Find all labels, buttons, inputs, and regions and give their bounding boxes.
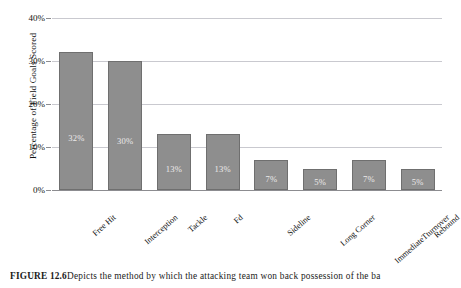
- bar[interactable]: 7%: [352, 160, 386, 190]
- figure-caption-text: Depicts the method by which the attackin…: [67, 271, 381, 281]
- y-tick-mark: [46, 190, 51, 191]
- bar-value-label: 30%: [109, 136, 141, 146]
- bar-value-label: 5%: [304, 177, 336, 187]
- figure-number: FIGURE 12.6: [10, 271, 67, 281]
- bar-chart: Percentage of Field Goals Scored 0%10%20…: [0, 0, 455, 262]
- bar[interactable]: 13%: [206, 134, 240, 190]
- bar[interactable]: 5%: [401, 169, 435, 191]
- x-tick-label: Long Corner: [338, 213, 376, 248]
- bar-value-label: 13%: [207, 164, 239, 174]
- y-tick-mark: [46, 61, 51, 62]
- bar[interactable]: 5%: [303, 169, 337, 191]
- gridline: [52, 190, 442, 191]
- bar[interactable]: 7%: [254, 160, 288, 190]
- y-tick-label: 30%: [29, 56, 46, 66]
- bar-value-label: 32%: [60, 133, 92, 143]
- x-tick-label: Fd: [232, 213, 245, 226]
- y-tick-label: 20%: [29, 99, 46, 109]
- x-tick-label: ImmediateTturnover: [393, 213, 451, 265]
- bar-value-label: 7%: [255, 174, 287, 184]
- figure-caption: FIGURE 12.6Depicts the method by which t…: [10, 270, 454, 282]
- bar-series: 32%30%13%13%7%5%7%5%: [52, 18, 442, 190]
- bar-value-label: 13%: [158, 164, 190, 174]
- bar-value-label: 7%: [353, 174, 385, 184]
- bar[interactable]: 30%: [108, 61, 142, 190]
- y-tick-label: 40%: [29, 13, 46, 23]
- bar[interactable]: 32%: [59, 52, 93, 190]
- bar[interactable]: 13%: [157, 134, 191, 190]
- y-tick-label: 10%: [29, 142, 46, 152]
- y-tick-mark: [46, 147, 51, 148]
- plot-area: 0%10%20%30%40% 32%30%13%13%7%5%7%5% Free…: [52, 18, 442, 190]
- x-tick-label: Tackle: [187, 213, 210, 234]
- y-tick-mark: [46, 18, 51, 19]
- x-tick-label: Sideline: [286, 213, 313, 238]
- y-axis-title: Percentage of Field Goals Scored: [28, 11, 38, 181]
- y-tick-label: 0%: [33, 185, 45, 195]
- x-tick-label: Interception: [143, 213, 179, 246]
- bar-value-label: 5%: [402, 177, 434, 187]
- x-tick-label: Free Hit: [91, 213, 118, 238]
- y-tick-mark: [46, 104, 51, 105]
